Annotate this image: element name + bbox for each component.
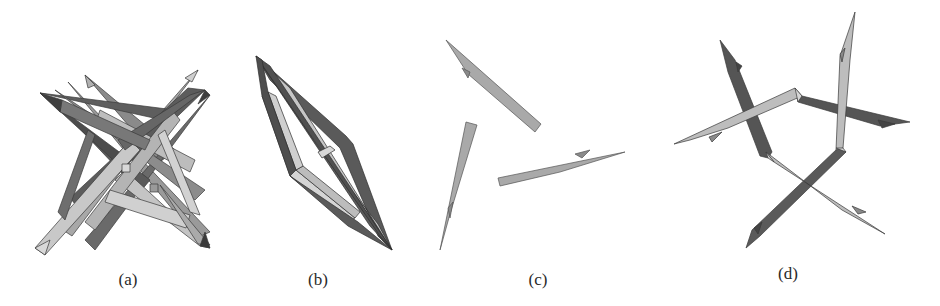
stick-1 (446, 40, 541, 132)
panel-c-sticks (440, 40, 625, 250)
panel-b-rhombus (256, 56, 392, 250)
figure: (a) (b) (c) (d) (0, 0, 940, 306)
panel-a-star (35, 70, 210, 255)
stick-3 (498, 152, 625, 186)
figure-artwork (0, 0, 940, 306)
panel-c-caption: (c) (529, 270, 548, 290)
stick-2 (440, 122, 477, 250)
panel-d-caption: (d) (778, 264, 798, 284)
panel-d-pinwheel (674, 12, 910, 248)
panel-b-caption: (b) (308, 270, 328, 290)
panel-a-caption: (a) (119, 270, 138, 290)
